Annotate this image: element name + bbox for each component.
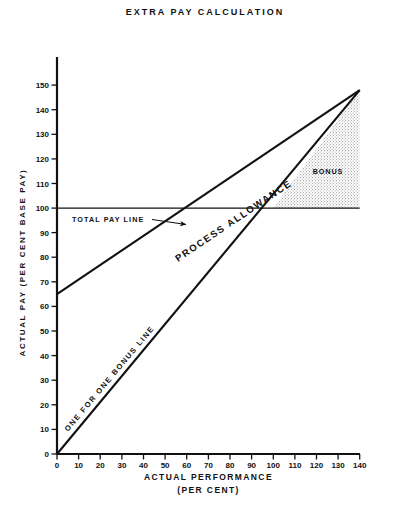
x-tick-label: 100 bbox=[267, 461, 281, 470]
y-tick-label: 90 bbox=[40, 229, 49, 238]
y-tick-label: 30 bbox=[40, 376, 49, 385]
plot-area: 0 10 20 30 40 50 60 70 80 90 100 110 120… bbox=[0, 0, 410, 505]
y-tick-label: 10 bbox=[40, 425, 49, 434]
x-tick-label: 80 bbox=[226, 461, 235, 470]
y-tick-label: 130 bbox=[36, 130, 50, 139]
x-tick-label: 40 bbox=[139, 461, 148, 470]
x-tick-label: 50 bbox=[161, 461, 170, 470]
y-tick-label: 150 bbox=[36, 81, 50, 90]
x-tick-label: 60 bbox=[182, 461, 191, 470]
x-tick-label: 30 bbox=[117, 461, 126, 470]
x-tick-label: 20 bbox=[96, 461, 105, 470]
x-tick-label: 0 bbox=[55, 461, 60, 470]
y-tick-label: 100 bbox=[36, 204, 50, 213]
y-tick-label: 80 bbox=[40, 253, 49, 262]
y-axis-tick-labels: 0 10 20 30 40 50 60 70 80 90 100 110 120… bbox=[36, 81, 50, 459]
y-tick-label: 110 bbox=[36, 180, 49, 189]
y-tick-label: 60 bbox=[40, 302, 49, 311]
x-tick-label: 110 bbox=[288, 461, 301, 470]
y-tick-label: 70 bbox=[40, 278, 49, 287]
x-tick-label: 90 bbox=[247, 461, 256, 470]
x-tick-label: 120 bbox=[310, 461, 324, 470]
y-tick-label: 20 bbox=[40, 401, 49, 410]
x-tick-label: 140 bbox=[353, 461, 367, 470]
x-tick-label: 130 bbox=[331, 461, 345, 470]
process-allowance-label: PROCESS ALLOWANCE bbox=[173, 177, 294, 263]
y-tick-label: 40 bbox=[40, 352, 49, 361]
x-tick-label: 10 bbox=[74, 461, 83, 470]
one-for-one-bonus-line bbox=[57, 90, 360, 454]
x-tick-label: 70 bbox=[204, 461, 213, 470]
x-axis-tick-labels: 0 10 20 30 40 50 60 70 80 90 100 110 120… bbox=[55, 461, 367, 470]
total-pay-line-callout-arrow bbox=[152, 220, 186, 225]
y-tick-label: 120 bbox=[36, 155, 50, 164]
y-tick-label: 140 bbox=[36, 106, 50, 115]
chart-figure: EXTRA PAY CALCULATION ACTUAL PAY (PER CE… bbox=[0, 0, 410, 505]
total-pay-line-label: TOTAL PAY LINE bbox=[72, 215, 144, 224]
bonus-region-label: BONUS bbox=[313, 167, 343, 176]
one-for-one-bonus-line-label: ONE FOR ONE BONUS LINE bbox=[63, 324, 157, 433]
y-tick-label: 50 bbox=[40, 327, 49, 336]
y-tick-label: 0 bbox=[45, 450, 50, 459]
